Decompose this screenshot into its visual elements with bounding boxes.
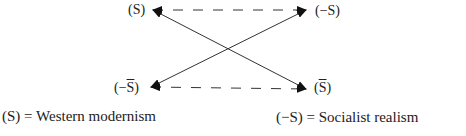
- node-neg-s: (−S): [315, 3, 340, 19]
- node-suffix: ): [134, 80, 139, 95]
- node-prefix: (−: [114, 80, 127, 95]
- node-s-bar: (S): [314, 80, 331, 96]
- legend-socialist-realism: (−S) = Socialist realism: [276, 109, 418, 126]
- node-suffix: ): [326, 80, 331, 95]
- node-s: (S): [128, 2, 145, 18]
- diagonal-edge-neg-s-to-neg-sbar: [151, 10, 306, 87]
- dashed-edge-bottom: [151, 87, 306, 89]
- node-neg-s-bar: (−S): [114, 80, 139, 96]
- legend-western-modernism: (S) = Western modernism: [2, 108, 156, 125]
